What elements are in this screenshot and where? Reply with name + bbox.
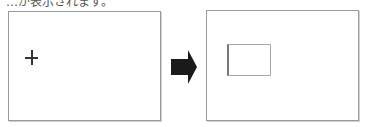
caption-text: …が表示されます。 bbox=[6, 0, 113, 9]
before-panel bbox=[8, 11, 161, 121]
drawn-rectangle bbox=[227, 44, 271, 76]
right-arrow-icon bbox=[171, 50, 197, 84]
crosshair-vertical bbox=[31, 50, 33, 65]
crosshair-cursor-icon bbox=[25, 50, 38, 65]
